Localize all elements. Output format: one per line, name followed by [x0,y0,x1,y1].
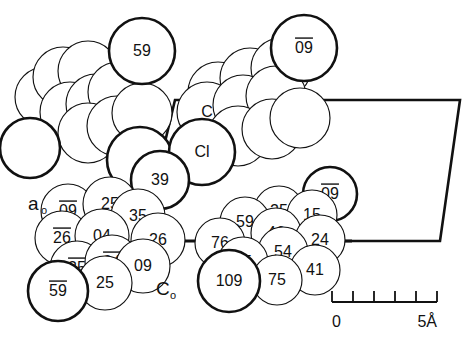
axis-a-subscript: o [41,204,47,216]
atom-label: 25 [96,274,114,291]
axis-a-letter: a [28,193,39,214]
atom-circle[interactable]: 109 [198,250,260,312]
atom-circle[interactable] [270,88,330,148]
axis-label-a0: a o [28,193,47,216]
atom-label: 41 [306,261,324,278]
atom-circles-layer: 59C09Cl390925352604263504092559092515594… [0,15,357,321]
atom-outline [0,118,60,178]
scale-bar-start-label: 0 [332,313,341,330]
atom-outline [270,88,330,148]
atom-circle[interactable] [0,118,60,178]
atom-label: 109 [216,272,243,289]
atom-label: 59 [133,42,151,59]
atom-label: Cl [194,143,209,160]
axis-c-letter: C [156,278,170,299]
packing-diagram: 59C09Cl390925352604263504092559092515594… [0,0,470,344]
atom-label: C [201,103,213,120]
scale-bar-end-label: 5Å [417,312,437,330]
axis-label-c0: C o [156,278,176,301]
atom-circle[interactable]: 59 [28,261,88,321]
axis-c-subscript: o [170,289,176,301]
scale-bar-ticks [332,291,437,302]
atom-circle[interactable]: 59 [109,18,175,84]
figure-canvas: 59C09Cl390925352604263504092559092515594… [0,0,470,344]
atom-label: 09 [295,39,313,56]
atom-label: 39 [151,171,169,188]
atom-circle[interactable]: 09 [271,15,337,81]
atom-label: 59 [49,282,67,299]
atom-label: 09 [134,257,152,274]
scale-bar: 0 5Å [332,291,437,330]
atom-label: 75 [268,271,286,288]
